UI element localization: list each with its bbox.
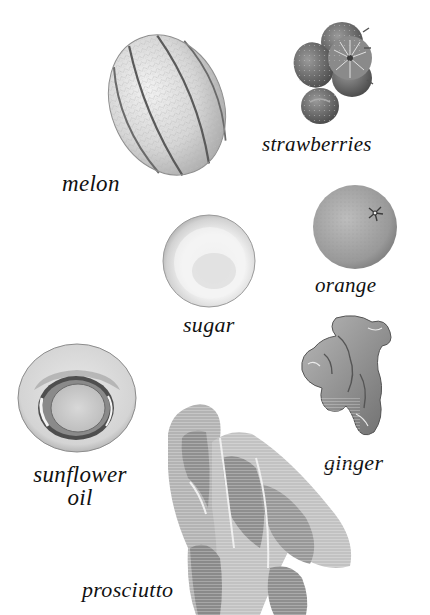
sunflower-oil-label-line2: oil	[22, 486, 138, 509]
ingredients-page: melon	[0, 0, 430, 615]
sugar-label: sugar	[183, 314, 235, 336]
prosciutto-icon	[160, 398, 360, 615]
sunflower-oil-illustration	[16, 342, 138, 454]
strawberries-illustration	[292, 18, 377, 126]
melon-label: melon	[62, 172, 120, 195]
prosciutto-label: prosciutto	[82, 579, 173, 601]
orange-illustration	[311, 184, 399, 270]
strawberries-label: strawberries	[262, 134, 372, 155]
orange-label: orange	[315, 275, 376, 296]
sugar-illustration	[160, 213, 258, 309]
orange-icon	[311, 184, 399, 270]
sunflower-oil-label: sunflower oil	[22, 463, 138, 509]
melon-icon	[92, 30, 242, 180]
sunflower-oil-label-line1: sunflower	[22, 463, 138, 486]
strawberries-icon	[292, 18, 377, 126]
sugar-bowl-icon	[160, 213, 258, 309]
prosciutto-illustration	[160, 398, 360, 615]
melon-illustration	[92, 30, 242, 180]
oil-bowl-icon	[16, 342, 138, 454]
